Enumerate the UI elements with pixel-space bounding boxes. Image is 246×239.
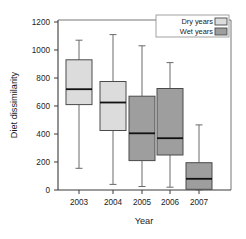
x-tick-label: 2007 bbox=[190, 198, 209, 207]
box-plot-item bbox=[186, 125, 212, 190]
box-plot-item bbox=[100, 35, 126, 185]
y-tick-label: 200 bbox=[36, 158, 50, 167]
legend-swatch-dry bbox=[215, 18, 227, 25]
x-axis-ticks: 2003 2004 2005 2006 2007 bbox=[70, 190, 209, 207]
y-tick-label: 1000 bbox=[32, 46, 51, 55]
legend-label-wet: Wet years bbox=[180, 27, 213, 36]
x-tick-label: 2003 bbox=[70, 198, 89, 207]
y-tick-label: 0 bbox=[45, 186, 50, 195]
box-body bbox=[129, 96, 155, 160]
y-tick-label: 600 bbox=[36, 102, 50, 111]
y-tick-label: 400 bbox=[36, 130, 50, 139]
legend-swatch-wet bbox=[215, 28, 227, 35]
legend: Dry years Wet years bbox=[156, 15, 229, 37]
box-body bbox=[186, 163, 212, 190]
box-plot-item bbox=[157, 63, 183, 188]
y-axis-ticks: 1200 1000 800 600 400 200 0 bbox=[32, 18, 58, 195]
box-body bbox=[100, 82, 126, 131]
box-plot-item bbox=[66, 40, 92, 168]
y-axis-title: Diet dissimilarity bbox=[9, 71, 19, 138]
y-tick-label: 800 bbox=[36, 74, 50, 83]
x-tick-label: 2004 bbox=[104, 198, 123, 207]
x-axis-title: Year bbox=[135, 216, 154, 226]
x-tick-label: 2006 bbox=[161, 198, 180, 207]
box-series bbox=[66, 35, 212, 190]
box-plot-item bbox=[129, 46, 155, 187]
y-tick-label: 1200 bbox=[32, 18, 51, 27]
chart-container: 1200 1000 800 600 400 200 0 Diet dissimi… bbox=[0, 0, 246, 239]
box-body bbox=[157, 89, 183, 156]
box-body bbox=[66, 60, 92, 105]
legend-label-dry: Dry years bbox=[181, 17, 213, 26]
x-tick-label: 2005 bbox=[133, 198, 152, 207]
boxplot-figure: 1200 1000 800 600 400 200 0 Diet dissimi… bbox=[0, 0, 246, 239]
